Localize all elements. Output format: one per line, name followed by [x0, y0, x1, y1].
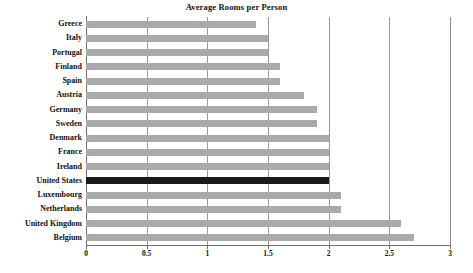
bar-italy: [86, 35, 268, 42]
bar-france: [86, 149, 329, 156]
bar-row: [86, 74, 450, 88]
bar-luxembourg: [86, 192, 341, 199]
chart-container: Average Rooms per Person GreeceItalyPort…: [0, 0, 473, 273]
gridline-3: [450, 17, 451, 245]
bar-row: [86, 217, 450, 231]
y-label-netherlands: Netherlands: [0, 204, 82, 214]
bar-united-kingdom: [86, 220, 401, 227]
chart-title: Average Rooms per Person: [0, 2, 473, 12]
bar-austria: [86, 92, 304, 99]
y-label-united-states: United States: [0, 176, 82, 186]
bar-row: [86, 88, 450, 102]
bar-row: [86, 31, 450, 45]
bar-row: [86, 117, 450, 131]
bar-denmark: [86, 135, 329, 142]
y-axis-category-labels: GreeceItalyPortugalFinlandSpainAustriaGe…: [0, 17, 82, 245]
x-tick-label-0: 0: [84, 249, 88, 258]
bar-series: [86, 17, 450, 245]
y-label-greece: Greece: [0, 19, 82, 29]
bar-portugal: [86, 49, 268, 56]
y-label-belgium: Belgium: [0, 233, 82, 243]
bar-row: [86, 174, 450, 188]
y-label-finland: Finland: [0, 62, 82, 72]
bar-netherlands: [86, 206, 341, 213]
x-tick-label-0-5: 0.5: [142, 249, 151, 258]
x-tick-label-1: 1: [205, 249, 209, 258]
y-label-sweden: Sweden: [0, 119, 82, 129]
bar-row: [86, 46, 450, 60]
y-label-portugal: Portugal: [0, 48, 82, 58]
bar-row: [86, 60, 450, 74]
bar-germany: [86, 106, 317, 113]
y-label-spain: Spain: [0, 76, 82, 86]
y-label-austria: Austria: [0, 90, 82, 100]
bar-row: [86, 188, 450, 202]
x-tick-label-2-5: 2.5: [385, 249, 394, 258]
bar-row: [86, 103, 450, 117]
bar-row: [86, 145, 450, 159]
bar-spain: [86, 78, 280, 85]
y-label-france: France: [0, 147, 82, 157]
bar-finland: [86, 63, 280, 70]
plot-area: [86, 17, 450, 245]
y-label-united-kingdom: United Kingdom: [0, 219, 82, 229]
x-tick-label-1-5: 1.5: [263, 249, 272, 258]
x-tick-label-2: 2: [327, 249, 331, 258]
x-tick-label-3: 3: [448, 249, 452, 258]
y-label-luxembourg: Luxembourg: [0, 190, 82, 200]
x-axis-tick-labels: 00.511.522.53: [0, 249, 473, 263]
bar-united-states: [86, 177, 329, 184]
bar-row: [86, 231, 450, 245]
bar-row: [86, 202, 450, 216]
bar-row: [86, 131, 450, 145]
bar-sweden: [86, 120, 317, 127]
bar-greece: [86, 21, 256, 28]
y-label-italy: Italy: [0, 33, 82, 43]
y-label-germany: Germany: [0, 105, 82, 115]
y-label-ireland: Ireland: [0, 162, 82, 172]
y-label-denmark: Denmark: [0, 133, 82, 143]
bar-row: [86, 17, 450, 31]
bar-ireland: [86, 163, 329, 170]
bar-row: [86, 160, 450, 174]
bar-belgium: [86, 234, 414, 241]
